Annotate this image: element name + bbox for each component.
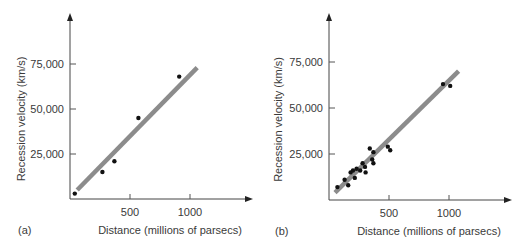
y-tick-label: 50,000 [289,102,323,114]
y-axis-arrow-icon [326,13,332,21]
y-tick-label: 50,000 [30,103,64,115]
data-point [360,161,364,165]
x-axis-arrow-icon [245,196,253,202]
fit-line [335,71,459,192]
data-point [368,146,372,150]
y-axis-arrow-icon [67,13,73,21]
data-point [371,161,375,165]
data-point [346,183,350,187]
y-axis-label: Recession velocity (km/s) [15,57,27,182]
fit-line [77,68,197,190]
scatter-plot-b: 500100025,00050,00075,000Distance (milli… [259,0,519,244]
data-point [112,159,116,163]
data-point [441,82,445,86]
x-tick-label: 500 [121,206,139,218]
data-point [358,168,362,172]
x-axis-arrow-icon [504,197,512,203]
chart-panel-b: 500100025,00050,00075,000Distance (milli… [259,0,519,244]
data-point [177,74,181,78]
x-axis-label: Distance (millions of parsecs) [98,224,242,236]
y-tick-label: 25,000 [30,148,64,160]
x-tick-label: 1000 [178,206,202,218]
data-point [100,170,104,174]
data-point [136,116,140,120]
chart-panel-a: 500100025,00050,00075,000Distance (milli… [0,0,260,244]
data-point [363,165,367,169]
data-point [342,178,346,182]
data-point [386,144,390,148]
x-tick-label: 1000 [437,207,461,219]
y-tick-label: 75,000 [30,58,64,70]
x-tick-label: 500 [380,207,398,219]
y-tick-label: 25,000 [289,148,323,160]
x-axis-label: Distance (millions of parsecs) [357,225,501,237]
data-point [371,150,375,154]
y-tick-label: 75,000 [289,56,323,68]
y-axis-label: Recession velocity (km/s) [272,57,284,182]
data-point [388,148,392,152]
scatter-plot-a: 500100025,00050,00075,000Distance (milli… [0,0,260,244]
data-point [448,84,452,88]
data-point [73,191,77,195]
panel-label: (a) [18,224,31,236]
panel-label: (b) [275,225,288,237]
data-point [335,185,339,189]
data-point [353,176,357,180]
data-point [363,170,367,174]
